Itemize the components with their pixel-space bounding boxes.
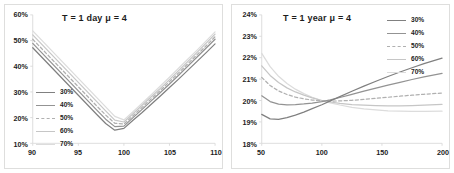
y-axis-tick-label: 40% [0,62,28,71]
x-axis-tick-label: 200 [430,148,454,157]
legend-label: 70% [60,141,73,148]
legend-swatch-40% [36,105,55,106]
chart-panel-left: T = 1 day μ = 4 30%40%50%60%70% 10%20%30… [0,0,227,173]
legend-swatch-60% [387,59,406,60]
legend-swatch-50% [387,46,406,47]
legend-item[interactable]: 30% [387,14,424,27]
legend-item[interactable]: 60% [36,125,73,138]
x-axis-tick-label: 100 [111,148,137,157]
y-axis-tick-label: 21% [227,75,257,84]
x-axis-tick-label: 110 [203,148,229,157]
y-axis-tick-label: 23% [227,32,257,41]
legend-label: 50% [411,43,424,50]
y-axis-tick-label: 60% [0,10,28,19]
y-axis-tick-label: 20% [227,97,257,106]
x-axis-tick-label: 100 [309,148,335,157]
legend-label: 50% [60,115,73,122]
legend-swatch-70% [387,72,406,73]
legend-label: 60% [60,128,73,135]
chart-panel-right: T = 1 year μ = 4 30%40%50%60%70% 18%19%2… [227,0,454,173]
x-axis-tick-label: 95 [65,148,91,157]
legend-label: 40% [60,102,73,109]
legend-swatch-30% [387,20,406,21]
x-axis-tick-label: 105 [157,148,183,157]
legend-swatch-70% [36,144,55,145]
legend-item[interactable]: 60% [387,53,424,66]
legend-swatch-60% [36,131,55,132]
x-axis-tick-label: 150 [369,148,395,157]
legend-item[interactable]: 50% [387,40,424,53]
legend-item[interactable]: 40% [387,27,424,40]
legend-swatch-30% [36,92,55,93]
legend-item[interactable]: 40% [36,99,73,112]
y-axis-tick-label: 20% [0,114,28,123]
legend-label: 30% [411,17,424,24]
y-axis-tick-label: 24% [227,10,257,19]
chart-legend-left: 30%40%50%60%70% [36,86,73,151]
figure-two-panel-chart: T = 1 day μ = 4 30%40%50%60%70% 10%20%30… [0,0,454,173]
legend-swatch-40% [387,33,406,34]
legend-label: 40% [411,30,424,37]
legend-label: 60% [411,56,424,63]
legend-item[interactable]: 70% [387,66,424,79]
legend-label: 70% [411,69,424,76]
y-axis-tick-label: 30% [0,88,28,97]
x-axis-tick-label: 90 [19,148,45,157]
y-axis-tick-label: 22% [227,53,257,62]
legend-swatch-50% [36,118,55,119]
legend-label: 30% [60,89,73,96]
y-axis-tick-label: 50% [0,36,28,45]
legend-item[interactable]: 30% [36,86,73,99]
legend-item[interactable]: 50% [36,112,73,125]
x-axis-tick-label: 50 [248,148,274,157]
chart-legend-right: 30%40%50%60%70% [387,14,424,79]
y-axis-tick-label: 19% [227,118,257,127]
